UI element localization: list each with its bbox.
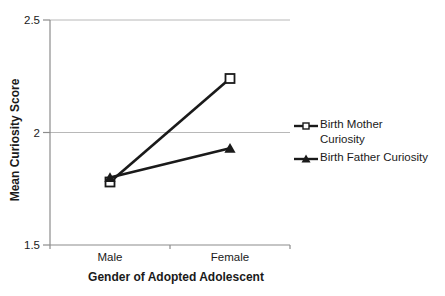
- series-line-birth-mother-curiosity: [110, 79, 230, 183]
- chart-canvas: 2.521.5MaleFemale Mean Curiosity Score G…: [0, 0, 445, 296]
- legend-label-line: Curiosity: [320, 132, 383, 147]
- x-tick-label: Female: [211, 251, 249, 263]
- legend-entry-birth-father: Birth Father Curiosity: [294, 150, 428, 165]
- y-tick-label: 2.5: [24, 14, 40, 26]
- open-square-line-icon: [294, 120, 318, 132]
- y-axis-title: Mean Curiosity Score: [8, 79, 22, 202]
- legend-entry-birth-mother: Birth Mother Curiosity: [294, 117, 428, 147]
- series-line-birth-father-curiosity: [110, 148, 230, 177]
- marker-birth-mother-curiosity-female: [226, 74, 235, 83]
- legend: Birth Mother Curiosity Birth Father Curi…: [294, 117, 428, 165]
- filled-triangle-line-icon: [294, 153, 318, 165]
- legend-label-line: Birth Father Curiosity: [320, 150, 428, 165]
- y-tick-label: 1.5: [24, 239, 40, 251]
- x-axis-title: Gender of Adopted Adolescent: [88, 270, 264, 284]
- x-tick-label: Male: [98, 251, 123, 263]
- y-tick-label: 2: [34, 127, 40, 139]
- legend-label-line: Birth Mother: [320, 117, 383, 132]
